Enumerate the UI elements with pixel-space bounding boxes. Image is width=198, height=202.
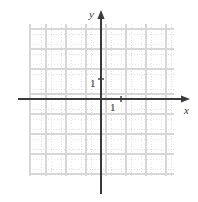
- x-axis-unit-tick-label: 1: [110, 102, 116, 113]
- y-axis-label: y: [89, 9, 94, 20]
- y-axis-unit-tick-label: 1: [90, 78, 96, 89]
- coordinate-plane-figure: y x 1 1: [0, 0, 198, 202]
- y-axis: [97, 10, 104, 194]
- x-axis: [18, 95, 190, 102]
- x-axis-label: x: [184, 105, 189, 116]
- coordinate-plane-canvas: [0, 0, 198, 202]
